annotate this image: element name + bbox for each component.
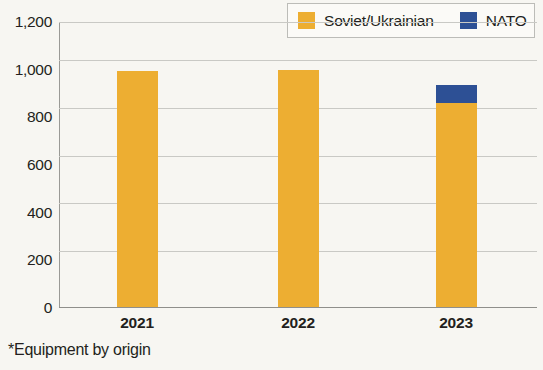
bar-group-2022[interactable] — [278, 70, 319, 307]
bar-segment-2023-nato[interactable] — [436, 85, 477, 103]
bar-segment-2021-soviet-ukrainian[interactable] — [117, 71, 158, 307]
bar-group-2023[interactable] — [436, 85, 477, 307]
y-tick-label-800: 800 — [0, 108, 52, 126]
bar-group-2021[interactable] — [117, 71, 158, 307]
bar-segment-2023-soviet-ukrainian[interactable] — [436, 103, 477, 307]
x-tick-label-2022: 2022 — [253, 314, 343, 332]
y-tick-label-200: 200 — [0, 251, 52, 269]
y-axis-labels: 1,200 1,000 800 600 400 200 0 — [0, 22, 52, 308]
x-axis-baseline — [59, 307, 537, 308]
y-tick-label-400: 400 — [0, 204, 52, 222]
chart-footnote: *Equipment by origin — [8, 341, 151, 359]
x-tick-label-2021: 2021 — [92, 314, 182, 332]
y-tick-label-0: 0 — [0, 299, 52, 317]
bar-chart: Soviet/Ukrainian NATO 1,200 1,000 800 60… — [0, 0, 543, 370]
y-tick-label-1200: 1,200 — [0, 13, 52, 31]
y-axis-line — [59, 22, 60, 308]
y-tick-label-1000: 1,000 — [0, 61, 52, 79]
plot-area — [59, 22, 537, 308]
bar-segment-2022-soviet-ukrainian[interactable] — [278, 70, 319, 307]
gridline-1200 — [59, 22, 537, 23]
gridline-1000 — [59, 60, 537, 61]
y-tick-label-600: 600 — [0, 156, 52, 174]
x-tick-label-2023: 2023 — [411, 314, 501, 332]
